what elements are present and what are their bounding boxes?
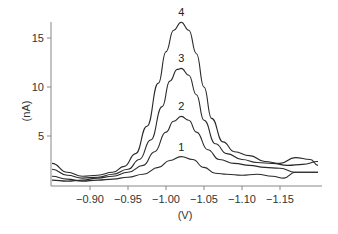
x-tick-label: −1.00 — [152, 193, 180, 205]
y-axis-ticks: 51015 — [32, 32, 51, 142]
curve-label-2: 2 — [178, 100, 184, 112]
x-axis-label: (V) — [178, 209, 193, 221]
curve-labels: 1234 — [178, 6, 184, 152]
curve-label-1: 1 — [178, 141, 184, 153]
plot-area: 1234 — [52, 6, 318, 181]
curves — [52, 22, 318, 181]
y-tick-label: 10 — [32, 81, 44, 93]
y-tick-label: 15 — [32, 32, 44, 44]
curve-3 — [52, 68, 318, 178]
curve-label-3: 3 — [178, 52, 184, 64]
voltammogram-chart: 1234 51015 −0.90−0.95−1.00−1.05−1.10−1.1… — [0, 0, 338, 234]
x-tick-label: −0.90 — [76, 193, 104, 205]
x-tick-label: −1.05 — [190, 193, 218, 205]
y-axis-label: (nA) — [20, 101, 32, 122]
x-tick-label: −1.15 — [266, 193, 294, 205]
curve-4 — [52, 22, 318, 176]
x-tick-label: −1.10 — [228, 193, 256, 205]
curve-label-4: 4 — [178, 6, 184, 18]
x-axis-ticks: −0.90−0.95−1.00−1.05−1.10−1.15 — [76, 186, 294, 205]
curve-2 — [52, 116, 318, 181]
y-tick-label: 5 — [38, 130, 44, 142]
x-tick-label: −0.95 — [114, 193, 142, 205]
